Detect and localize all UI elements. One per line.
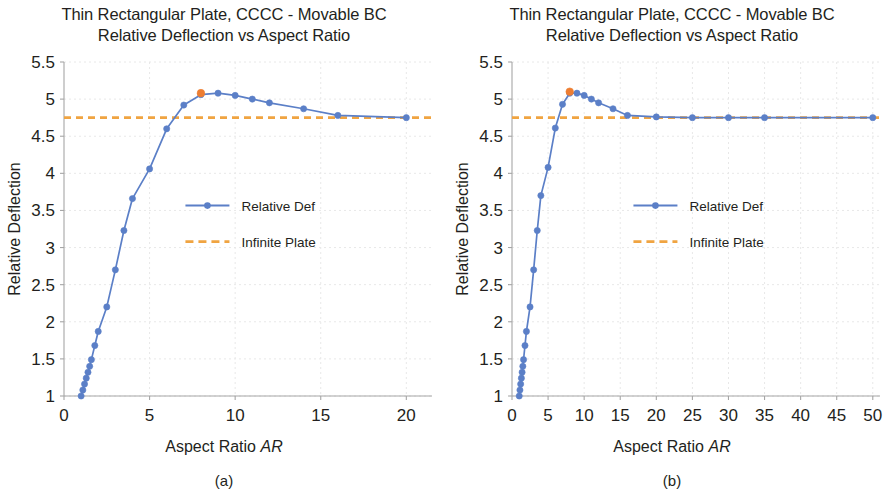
x-tick-label: 0 [59,406,68,425]
data-point-marker [78,393,84,399]
y-tick-label: 1 [494,387,503,406]
y-tick-label: 3 [494,239,503,258]
data-point-marker [121,227,127,233]
panel-b-xaxis-label: Aspect Ratio AR [448,438,896,456]
panel-b-caption: (b) [448,472,896,489]
y-tick-label: 3.5 [479,201,503,220]
data-point-marker [95,328,101,334]
legend-label-infinite-plate: Infinite Plate [241,235,315,250]
data-point-marker [518,375,524,381]
panel-a-caption: (a) [0,472,448,489]
y-tick-label: 1.5 [31,350,55,369]
y-tick-label: 1.5 [479,350,503,369]
x-tick-label: 15 [611,406,630,425]
data-point-marker [129,195,135,201]
y-tick-label: 3.5 [31,201,55,220]
legend-label-infinite-plate: Infinite Plate [689,235,763,250]
x-tick-label: 10 [575,406,594,425]
y-tick-label: 4 [494,164,503,183]
x-tick-label: 20 [647,406,666,425]
x-tick-label: 40 [791,406,810,425]
data-point-marker [522,342,528,348]
data-point-marker [725,115,731,121]
data-point-marker [538,193,544,199]
data-point-marker [595,100,601,106]
data-point-marker [520,357,526,363]
data-point-marker [870,115,876,121]
data-point-marker [92,342,98,348]
data-point-marker [545,164,551,170]
data-point-marker [85,369,91,375]
legend-marker-relative-def [204,202,211,209]
data-point-marker [552,125,558,131]
y-tick-label: 5.5 [31,53,55,72]
y-tick-label: 4 [46,164,55,183]
chart-panel-b: Thin Rectangular Plate, CCCC - Movable B… [448,0,896,503]
legend-marker-relative-def [652,202,659,209]
y-tick-label: 3 [46,239,55,258]
data-point-marker [761,115,767,121]
panel-b-xaxis-label-text: Aspect Ratio [613,438,708,455]
data-point-marker [689,115,695,121]
data-point-marker [104,304,110,310]
y-tick-label: 4.5 [31,127,55,146]
y-axis-label: Relative Deflection [454,162,471,295]
x-tick-label: 50 [863,406,882,425]
panel-a-xaxis-label: Aspect Ratio AR [0,438,448,456]
y-tick-label: 5 [46,90,55,109]
data-point-marker [516,393,522,399]
panel-b-plot: 11.522.533.544.555.505101520253035404550… [448,0,896,440]
data-point-marker [301,106,307,112]
data-point-marker [88,357,94,363]
data-point-marker [574,90,580,96]
data-point-marker [624,112,630,118]
data-point-marker [534,227,540,233]
y-tick-label: 5.5 [479,53,503,72]
data-point-marker [81,381,87,387]
x-tick-label: 25 [683,406,702,425]
data-point-marker [249,96,255,102]
legend-label-relative-def: Relative Def [689,199,763,214]
panel-a-xaxis-label-text: Aspect Ratio [165,438,260,455]
panel-a-xaxis-label-italic: AR [260,438,282,455]
y-tick-label: 1 [46,387,55,406]
x-tick-label: 5 [145,406,154,425]
data-point-marker [581,92,587,98]
y-tick-label: 2 [46,313,55,332]
data-point-marker [146,166,152,172]
data-point-marker [232,92,238,98]
data-point-marker [112,267,118,273]
data-point-marker [519,369,525,375]
x-tick-label: 45 [827,406,846,425]
x-tick-label: 0 [507,406,516,425]
data-point-marker [531,267,537,273]
y-tick-label: 5 [494,90,503,109]
highlight-point-marker [197,89,205,97]
data-point-marker [520,363,526,369]
data-point-marker [518,381,524,387]
data-point-marker [403,115,409,121]
data-point-marker [181,102,187,108]
data-point-marker [164,126,170,132]
x-tick-label: 35 [755,406,774,425]
chart-legend: Relative DefInfinite Plate [633,199,763,250]
y-tick-label: 2.5 [479,276,503,295]
highlight-point-marker [566,88,574,96]
panel-a-plot: 11.522.533.544.555.505101520Relative Def… [0,0,448,440]
data-point-marker [517,387,523,393]
x-tick-label: 15 [311,406,330,425]
data-point-marker [87,363,93,369]
x-tick-label: 5 [543,406,552,425]
data-point-marker [80,387,86,393]
chart-legend: Relative DefInfinite Plate [185,199,315,250]
data-point-marker [653,114,659,120]
data-point-marker [559,101,565,107]
y-axis-label: Relative Deflection [6,162,23,295]
data-point-marker [527,304,533,310]
data-point-marker [610,106,616,112]
data-point-marker [588,96,594,102]
panel-b-xaxis-label-italic: AR [708,438,730,455]
y-tick-label: 2.5 [31,276,55,295]
x-tick-label: 10 [226,406,245,425]
data-point-marker [335,112,341,118]
